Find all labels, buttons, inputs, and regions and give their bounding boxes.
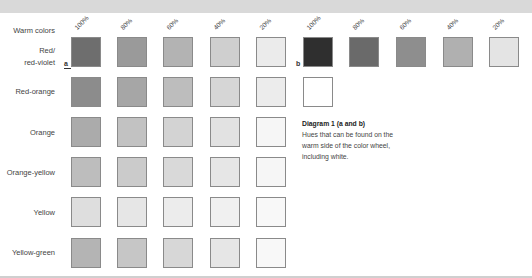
marker-a: a (64, 60, 68, 67)
caption-line: warm side of the color wheel, (302, 140, 432, 151)
swatch-orange-20 (256, 117, 286, 147)
row-label-orange-yellow: Orange-yellow (0, 167, 55, 179)
row-label-red-violet: red-violet (0, 57, 55, 69)
column-label-a-100: 100% (73, 14, 90, 31)
swatch-orange-yellow-80 (117, 157, 147, 187)
row-label-yellow: Yellow (0, 207, 55, 219)
top-bar (0, 0, 532, 13)
swatch-orange-60 (163, 117, 193, 147)
column-label-b-60: 60% (398, 17, 412, 31)
column-label-b-100: 100% (305, 14, 322, 31)
swatch-yellow-100 (71, 197, 101, 227)
swatch-yellow-green-40 (210, 238, 240, 268)
swatch-yellow-40 (210, 197, 240, 227)
swatch-yellow-80 (117, 197, 147, 227)
swatch-red-40 (210, 37, 240, 67)
swatch-red-orange-20 (256, 77, 286, 107)
swatch-yellow-green-80 (117, 238, 147, 268)
swatch-yellow-green-100 (71, 238, 101, 268)
marker-a-underline (64, 68, 71, 69)
swatch-b-40 (443, 37, 473, 67)
swatch-red-100 (71, 37, 101, 67)
column-label-a-40: 40% (212, 17, 226, 31)
diagram-caption: Diagram 1 (a and b) Hues that can be fou… (302, 118, 432, 162)
swatch-red-orange-40 (210, 77, 240, 107)
swatch-orange-80 (117, 117, 147, 147)
column-label-b-40: 40% (445, 17, 459, 31)
swatch-red-80 (117, 37, 147, 67)
swatch-red-60 (163, 37, 193, 67)
swatch-orange-40 (210, 117, 240, 147)
column-label-b-20: 20% (491, 17, 505, 31)
swatch-orange-yellow-20 (256, 157, 286, 187)
swatch-b-80 (349, 37, 379, 67)
column-label-b-80: 80% (351, 17, 365, 31)
swatch-yellow-green-20 (256, 238, 286, 268)
column-label-a-80: 80% (119, 17, 133, 31)
row-label-yellow-green: Yellow-green (0, 247, 55, 259)
row-label-red: Red/ (0, 45, 55, 57)
swatch-red-20 (256, 37, 286, 67)
swatch-red-orange-60 (163, 77, 193, 107)
swatch-yellow-green-60 (163, 238, 193, 268)
column-label-a-20: 20% (258, 17, 272, 31)
caption-title: Diagram 1 (a and b) (302, 118, 432, 129)
swatch-b-60 (396, 37, 426, 67)
swatch-orange-yellow-100 (71, 157, 101, 187)
swatch-b-100 (303, 37, 333, 67)
column-label-a-60: 60% (165, 17, 179, 31)
swatch-b-20 (489, 37, 519, 67)
header-label: Warm colors (0, 25, 55, 37)
swatch-red-orange-100 (71, 77, 101, 107)
swatch-orange-100 (71, 117, 101, 147)
row-label-red-orange: Red-orange (0, 86, 55, 98)
swatch-yellow-60 (163, 197, 193, 227)
marker-b: b (296, 60, 300, 67)
swatch-orange-yellow-40 (210, 157, 240, 187)
row-label-orange: Orange (0, 127, 55, 139)
swatch-orange-yellow-60 (163, 157, 193, 187)
swatch-red-orange-80 (117, 77, 147, 107)
caption-line: including white. (302, 151, 432, 162)
caption-line: Hues that can be found on the (302, 129, 432, 140)
swatch-yellow-20 (256, 197, 286, 227)
swatch-white (303, 77, 333, 107)
